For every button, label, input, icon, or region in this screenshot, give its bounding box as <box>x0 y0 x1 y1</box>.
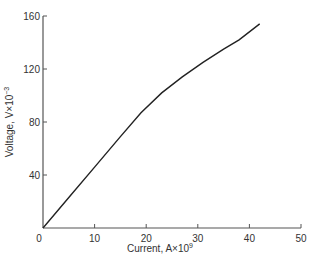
y-tick-label: 160 <box>23 11 40 22</box>
x-tick-label: 30 <box>192 233 204 244</box>
x-ticks: 01020304050 <box>36 224 307 244</box>
plot-area: 4080120160 01020304050 <box>23 11 307 245</box>
x-axis-label: Current, A×109 <box>127 242 193 254</box>
y-tick-label: 120 <box>23 64 40 75</box>
data-line <box>43 24 260 228</box>
x-tick-label: 50 <box>295 233 307 244</box>
x-tick-label: 0 <box>36 233 42 244</box>
y-axis-label: Voltage, V×10−3 <box>3 87 15 158</box>
voltage-current-chart: 4080120160 01020304050 Current, A×109 Vo… <box>0 0 315 268</box>
x-tick-label: 40 <box>244 233 256 244</box>
y-tick-label: 40 <box>29 170 41 181</box>
x-tick-label: 10 <box>89 233 101 244</box>
y-tick-label: 80 <box>29 117 41 128</box>
